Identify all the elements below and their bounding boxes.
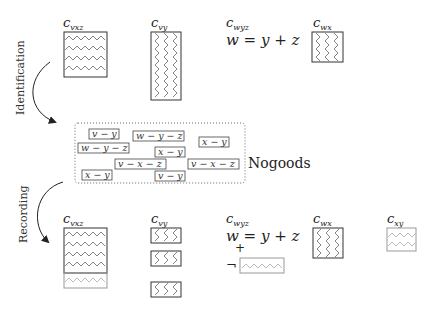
zigzag-recorded-icon xyxy=(65,278,105,282)
svg-text:v − y: v − y xyxy=(92,128,117,139)
svg-text:cwx: cwx xyxy=(313,15,332,32)
svg-text:x − y: x − y xyxy=(158,146,183,157)
svg-text:cwyz: cwyz xyxy=(226,15,250,32)
recording-arrow: Recording xyxy=(17,182,63,243)
nogood-item: v − x − z xyxy=(115,158,166,169)
svg-text:cvy: cvy xyxy=(151,15,168,32)
svg-text:v − y: v − y xyxy=(158,170,183,181)
zigzag-recorded-icon xyxy=(388,233,415,246)
svg-text:cvxz: cvxz xyxy=(63,211,84,228)
top-constraint-cvy: cvy xyxy=(151,15,181,100)
svg-text:v − x − z: v − x − z xyxy=(118,158,163,169)
diagram-canvas: cvxz cvy cwyz w = y + z cwx xyxy=(0,0,433,312)
nogood-item: x − y xyxy=(199,136,229,147)
svg-text:v − x − z: v − x − z xyxy=(191,158,236,169)
svg-text:cxy: cxy xyxy=(387,211,404,228)
nogood-item: w − y − z xyxy=(78,142,129,153)
top-constraint-cwyz: cwyz w = y + z xyxy=(226,15,300,49)
svg-text:cvy: cvy xyxy=(151,211,168,228)
identification-label: Identification xyxy=(14,40,27,115)
bottom-constraint-cwyz: cwyz w = y + z + ¬ xyxy=(226,211,300,273)
nogood-item: v − y xyxy=(89,128,119,139)
zigzag-recorded-icon xyxy=(242,264,282,268)
zigzag-vertical-icon xyxy=(316,33,338,61)
svg-text:w − y − z: w − y − z xyxy=(81,142,128,153)
bottom-constraint-cxy: cxy xyxy=(387,211,416,251)
nogood-item: x − y xyxy=(155,146,185,157)
svg-text:x − y: x − y xyxy=(85,169,110,180)
nogood-item: w − y − z xyxy=(133,130,184,141)
svg-text:cwx: cwx xyxy=(313,211,332,228)
identification-arrow: Identification xyxy=(14,40,55,122)
negation-symbol: ¬ xyxy=(226,258,237,273)
zigzag-vertical-icon xyxy=(317,229,339,257)
svg-text:x − y: x − y xyxy=(202,136,227,147)
zigzag-horizontal-icon xyxy=(65,232,105,266)
svg-text:w − y − z: w − y − z xyxy=(136,130,183,141)
plus-symbol: + xyxy=(235,241,245,255)
nogood-item: x − y xyxy=(82,169,112,180)
nogood-item: v − x − z xyxy=(188,158,239,169)
cvy-fragment xyxy=(151,228,181,243)
top-constraint-cwx: cwx xyxy=(312,15,343,62)
nogood-item: v − y xyxy=(155,170,185,181)
zigzag-vertical-icon xyxy=(155,33,177,97)
svg-text:cvxz: cvxz xyxy=(63,15,84,32)
top-constraint-cvxz: cvxz xyxy=(63,15,107,77)
bottom-constraint-cvy: cvy xyxy=(151,211,181,297)
bottom-constraint-cvxz: cvxz xyxy=(63,211,107,288)
cvy-fragment xyxy=(151,282,181,297)
nogoods-box: v − y w − y − z x − y w − y − z x − y v … xyxy=(75,123,245,183)
recording-label: Recording xyxy=(17,185,30,243)
equation-text: w = y + z xyxy=(226,31,300,49)
nogoods-label: Nogoods xyxy=(248,155,311,171)
zigzag-horizontal-icon xyxy=(65,36,105,70)
cvy-fragment xyxy=(151,251,181,266)
bottom-constraint-cwx: cwx xyxy=(313,211,343,258)
svg-text:cwyz: cwyz xyxy=(226,211,250,228)
